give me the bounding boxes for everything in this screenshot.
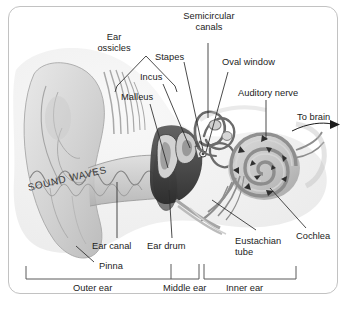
label-incus: Incus bbox=[140, 72, 162, 83]
label-auditory-nerve: Auditory nerve bbox=[238, 88, 298, 99]
label-oval-window: Oval window bbox=[222, 57, 275, 68]
label-pinna: Pinna bbox=[99, 261, 123, 272]
label-ear-drum: Ear drum bbox=[147, 241, 185, 252]
scale-label-inner-ear: Inner ear bbox=[226, 283, 263, 293]
label-eustachian-tube: Eustachian tube bbox=[235, 236, 281, 257]
scale-label-outer-ear: Outer ear bbox=[73, 283, 112, 293]
label-ear-ossicles: Ear ossicles bbox=[88, 32, 140, 53]
label-stapes: Stapes bbox=[155, 52, 184, 63]
label-malleus: Malleus bbox=[121, 92, 153, 103]
label-ear-canal: Ear canal bbox=[92, 241, 131, 252]
label-to-brain: To brain bbox=[297, 112, 330, 123]
ear-anatomy-diagram: Ear ossicles Semicircular canals Stapes … bbox=[0, 0, 347, 313]
label-cochlea: Cochlea bbox=[296, 231, 330, 242]
label-semicircular-canals: Semicircular canals bbox=[173, 11, 245, 32]
scale-label-middle-ear: Middle ear bbox=[163, 283, 206, 293]
